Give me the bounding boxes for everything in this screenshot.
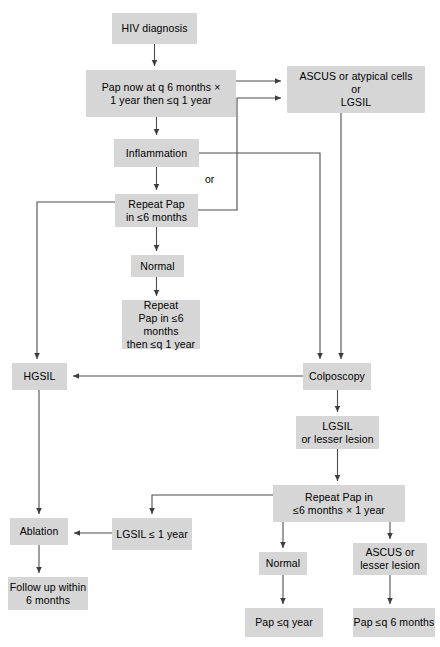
node-lgsil_lesser: LGSIL or lesser lesion	[296, 416, 379, 449]
node-hgsil: HGSIL	[12, 363, 67, 390]
node-lgsil_1yr: LGSIL ≤ 1 year	[112, 518, 192, 550]
node-ablation: Ablation	[10, 518, 68, 545]
flowchart-canvas: HIV diagnosisPap now at q 6 months × 1 y…	[0, 0, 440, 647]
edge-inflammation-to-colposcopy	[199, 153, 320, 359]
node-pap_q_6months: Pap ≤q 6 months	[353, 608, 435, 637]
node-inflammation: Inflammation	[114, 139, 199, 167]
edge-repeat1yr-to-lgsil1yr	[152, 495, 273, 514]
node-repeat_pap_6mo: Repeat Pap in ≤6 months	[115, 194, 198, 227]
node-colposcopy: Colposcopy	[303, 363, 371, 390]
node-hiv_diagnosis: HIV diagnosis	[112, 13, 197, 44]
node-ascus_lesser: ASCUS or lesser lesion	[353, 543, 427, 575]
node-pap_q_year: Pap ≤q year	[245, 608, 323, 637]
node-normal_bottom: Normal	[259, 552, 307, 575]
label-or_label: or	[205, 173, 214, 185]
node-normal_mid: Normal	[131, 255, 184, 277]
node-ascus_atypical: ASCUS or atypical cells or LGSIL	[287, 66, 425, 113]
edge-repeat-to-hgsil	[37, 202, 115, 359]
node-repeat_pap_then_q1: Repeat Pap in ≤6 months then ≤q 1 year	[122, 300, 200, 349]
node-pap_now: Pap now at q 6 months × 1 year then ≤q 1…	[86, 70, 236, 117]
node-follow_up: Follow up within 6 months	[8, 577, 88, 610]
node-repeat_pap_1yr: Repeat Pap in ≤6 months × 1 year	[273, 485, 405, 522]
